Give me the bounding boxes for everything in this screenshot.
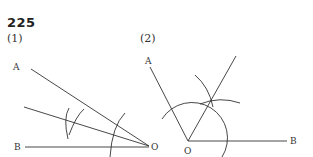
constructed-ray <box>188 56 236 141</box>
bisector-ray <box>24 107 149 146</box>
point-B-label: B <box>14 142 21 152</box>
ray-OA <box>31 69 149 146</box>
point-O-label: O <box>151 142 158 152</box>
point-O-label: O <box>184 146 191 156</box>
figure-1: A B O <box>12 62 158 157</box>
point-B-label: B <box>290 136 297 146</box>
figure-2: A O B <box>144 56 297 157</box>
compass-arc-1 <box>66 108 69 139</box>
compass-arc-2 <box>200 100 240 104</box>
point-A-label: A <box>144 56 152 66</box>
point-A-label: A <box>12 62 20 72</box>
construction-diagrams: A B O A O B <box>0 0 313 157</box>
